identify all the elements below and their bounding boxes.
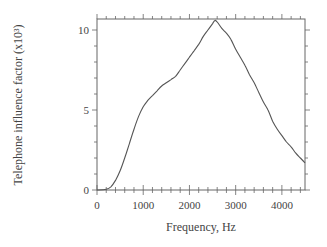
y-tick-label: 5 xyxy=(84,104,90,116)
x-tick-label: 4000 xyxy=(271,199,294,211)
x-tick-label: 2000 xyxy=(178,199,201,211)
minor-ticks xyxy=(94,16,308,193)
y-tick-labels: 0510 xyxy=(78,24,90,196)
x-axis-title: Frequency, Hz xyxy=(166,220,236,234)
y-axis-title: Telephone influence factor (x10³) xyxy=(11,24,25,185)
x-tick-label: 0 xyxy=(94,199,100,211)
plot-frame xyxy=(97,19,305,190)
data-line xyxy=(97,20,305,190)
y-tick-label: 0 xyxy=(84,184,90,196)
x-tick-label: 1000 xyxy=(132,199,155,211)
chart: 01000200030004000 0510 Frequency, Hz Tel… xyxy=(0,0,327,247)
x-tick-labels: 01000200030004000 xyxy=(94,199,293,211)
y-tick-label: 10 xyxy=(78,24,90,36)
x-tick-label: 3000 xyxy=(225,199,248,211)
